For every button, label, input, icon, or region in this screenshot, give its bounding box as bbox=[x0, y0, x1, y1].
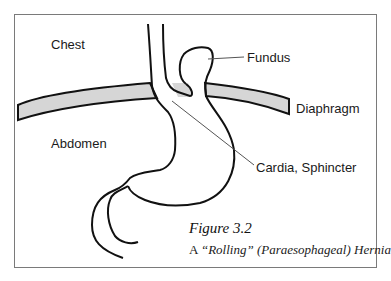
cardia-leader bbox=[172, 101, 254, 165]
figure-caption-title: Figure 3.2 bbox=[189, 221, 252, 236]
figure-caption-subtitle: A “Rolling” (Paraesophageal) Hernia bbox=[189, 243, 391, 256]
diaphragm-right bbox=[205, 83, 289, 114]
caption-paren: (Paraesophageal) bbox=[257, 242, 351, 257]
caption-prefix: A bbox=[189, 242, 201, 257]
label-chest: Chest bbox=[51, 38, 85, 51]
label-diaphragm: Diaphragm bbox=[296, 102, 360, 115]
caption-quoted: “Rolling” bbox=[201, 242, 254, 257]
stomach-greater-curve bbox=[128, 96, 234, 205]
caption-suffix: Hernia bbox=[354, 242, 391, 257]
label-abdomen: Abdomen bbox=[51, 137, 107, 150]
label-cardia-sphincter: Cardia, Sphincter bbox=[256, 161, 356, 174]
diaphragm-left bbox=[18, 83, 157, 120]
label-fundus: Fundus bbox=[247, 51, 290, 64]
